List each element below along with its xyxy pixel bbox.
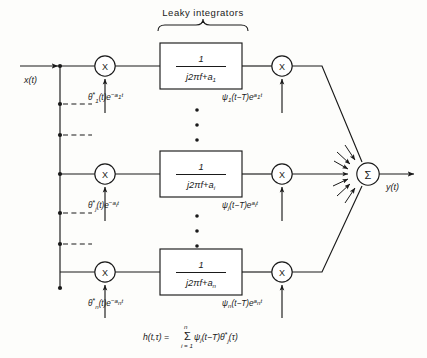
channel-n-output-multiplier-symbol: X [279,268,285,278]
lower-ellipsis [195,214,199,248]
channel-1-theta-label: θ*1(t)e−a1t [88,91,123,105]
channel-1-output-multiplier-symbol: X [279,62,285,72]
bus-junction-dot-3 [58,133,62,137]
channel-n-multiplier-symbol: X [102,268,108,278]
input-label: x(t) [23,75,37,85]
summer-fan-arrow-6 [345,145,355,160]
channel-i-group: X θ*j(t)e−ait 1 j2πf+ai X ψj(t−T)eait [60,151,348,221]
signal-flow-diagram: Leaky integrators x(t) X θ*1(t) [0,0,427,358]
channel-i-output-multiplier-symbol: X [279,170,285,180]
channel-n-numerator: 1 [198,260,203,270]
channel-i-theta-label: θ*j(t)e−ait [88,199,119,213]
channel-1-denominator: j2πf+a1 [184,72,216,83]
channel-1-psi-label: ψ1(t−T)ea1t [222,91,262,104]
equation-rhs: ψj(t−T)θ*j(τ) [194,331,238,345]
channel-n-denominator: j2πf+an [184,278,217,289]
channel-i-multiplier-symbol: X [102,170,108,180]
equation-sigma-lower: i = 1 [181,342,193,349]
channel-i-denominator: j2πf+ai [185,180,216,191]
output-label: y(t) [385,182,399,192]
channel-1-numerator: 1 [198,54,203,64]
bus-junction-dot-2 [58,102,62,106]
upper-ellipsis [195,108,199,142]
equation-lhs: h(t,τ) = [143,332,169,342]
channel-1-to-summer-wire [292,66,362,162]
summer-fan-arrow-4 [337,184,350,196]
channel-1-multiplier-symbol: X [102,62,108,72]
summer-fan-arrow-5 [345,188,355,203]
channel-n-psi-label: ψn(t−T)eant [222,297,262,310]
channel-n-theta-label: θ*n(t)e−ant [88,297,123,311]
impulse-response-equation: h(t,τ) = Σ n i = 1 ψj(t−T)θ*j(τ) [143,323,238,349]
equation-sigma-upper: n [184,323,188,330]
summer-fan-arrow-2 [334,161,348,169]
channel-1-group: X θ*1(t)e−a1t 1 j2πf+a1 X ψ1(t−T)ea1t [60,43,362,162]
bus-junction-dot-6 [58,242,62,246]
channel-n-to-summer-wire [292,186,362,272]
channel-i-numerator: 1 [198,162,203,172]
diagram-title: Leaky integrators [162,7,243,18]
equation-sigma: Σ [184,330,191,342]
channel-i-psi-label: ψj(t−T)eait [222,199,258,212]
bus-junction-dot-7 [58,286,62,290]
bus-junction-dot-5 [58,211,62,215]
block-diagram-root: Leaky integrators x(t) X θ*1(t) [0,0,427,358]
summer-fan-arrow-3 [333,179,348,186]
leaky-integrators-brace [158,19,248,31]
summing-junction-symbol: Σ [365,169,372,181]
summer-fan-arrow-1 [337,152,350,164]
